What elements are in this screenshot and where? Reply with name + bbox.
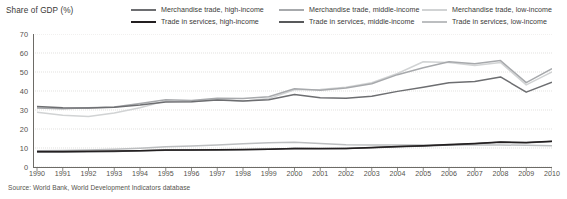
source-note: Source: World Bank, World Development In…: [8, 184, 190, 191]
legend-line-swatch-icon: [279, 21, 304, 23]
legend-item-label: Merchandise trade, high-income: [161, 6, 264, 14]
legend-column-1: Merchandise trade, middle-incomeTrade in…: [279, 4, 424, 28]
y-tick-label: 60: [2, 49, 28, 58]
legend-column-2: Merchandise trade, low-incomeTrade in se…: [422, 4, 567, 28]
legend-column-0: Merchandise trade, high-incomeTrade in s…: [131, 4, 276, 28]
series-line: [37, 61, 552, 109]
y-tick-label: 70: [2, 30, 28, 39]
legend-line-swatch-icon: [279, 9, 304, 11]
legend-line-swatch-icon: [422, 9, 447, 11]
y-tick-label: 20: [2, 125, 28, 134]
x-tick-label: 2010: [537, 170, 567, 178]
legend-item[interactable]: Merchandise trade, middle-income: [279, 4, 424, 16]
y-tick-label: 30: [2, 106, 28, 115]
legend-item-label: Trade in services, low-income: [452, 18, 547, 26]
y-axis-title: Share of GDP (%): [6, 6, 73, 15]
chart-legend: Merchandise trade, high-incomeTrade in s…: [131, 4, 565, 28]
legend-line-swatch-icon: [131, 21, 156, 23]
legend-item-label: Merchandise trade, middle-income: [309, 6, 419, 14]
legend-item-label: Trade in services, high-income: [161, 18, 259, 26]
y-tick-label: 10: [2, 144, 28, 153]
chart-canvas: [33, 34, 552, 173]
chart-figure: Share of GDP (%) Merchandise trade, high…: [0, 0, 567, 199]
legend-line-swatch-icon: [422, 21, 447, 23]
legend-item[interactable]: Trade in services, middle-income: [279, 16, 424, 28]
series-line: [37, 77, 552, 108]
plot-area: [33, 34, 552, 167]
legend-item-label: Merchandise trade, low-income: [452, 6, 552, 14]
y-tick-label: 40: [2, 87, 28, 96]
y-tick-label: 50: [2, 68, 28, 77]
legend-item[interactable]: Trade in services, high-income: [131, 16, 276, 28]
legend-item[interactable]: Merchandise trade, high-income: [131, 4, 276, 16]
legend-item-label: Trade in services, middle-income: [309, 18, 414, 26]
legend-line-swatch-icon: [131, 9, 156, 11]
legend-item[interactable]: Trade in services, low-income: [422, 16, 567, 28]
legend-item[interactable]: Merchandise trade, low-income: [422, 4, 567, 16]
